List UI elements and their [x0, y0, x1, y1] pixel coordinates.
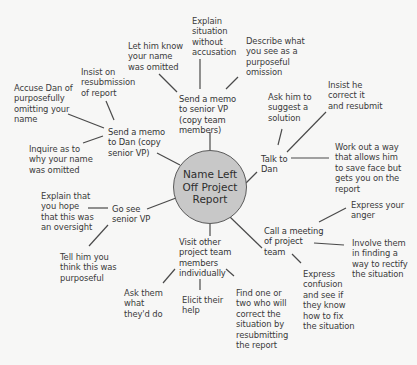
branch-visit-members: Visit other project team members individ…: [179, 237, 231, 279]
branch-memo-senior-vp: Send a memo to senior VP (copy team memb…: [179, 94, 236, 136]
leaf-express-anger: Express your anger: [351, 200, 404, 221]
leaf-think-purposeful: Tell him you think this was purposeful: [60, 252, 117, 283]
leaf-let-him-know: Let him know your name was omitted: [128, 41, 183, 72]
central-topic: Name Left Off Project Report: [173, 150, 247, 224]
leaf-inquire-why: Inquire as to why your name was omitted: [29, 144, 93, 175]
leaf-work-out-way: Work out a way that allows him to save f…: [335, 142, 401, 194]
leaf-explain-without-accusation: Explain situation without accusation: [192, 16, 236, 58]
mind-map: Name Left Off Project Report Send a memo…: [0, 0, 417, 365]
central-topic-label: Name Left Off Project Report: [183, 168, 238, 206]
branch-call-meeting: Call a meeting of project team: [264, 226, 323, 257]
leaf-ask-suggest-solution: Ask him to suggest a solution: [268, 92, 311, 123]
leaf-insist-correct-resubmit: Insist he correct it and resubmit: [328, 80, 382, 111]
leaf-describe-omission: Describe what you see as a purposeful om…: [246, 36, 305, 78]
leaf-accuse-dan: Accuse Dan of purposefully omitting your…: [14, 83, 73, 125]
leaf-insist-resubmission: Insist on resubmission of report: [81, 67, 135, 98]
leaf-elicit-help: Elicit their help: [182, 295, 223, 316]
leaf-express-confusion: Express confusion and see if they know h…: [303, 269, 355, 331]
leaf-ask-what-theyd-do: Ask them what they'd do: [124, 288, 163, 319]
branch-memo-dan: Send a memo to Dan (copy senior VP): [108, 127, 165, 158]
leaf-involve-them: Involve them in finding a way to rectify…: [352, 238, 408, 280]
leaf-hope-oversight: Explain that you hope that this was an o…: [41, 191, 94, 233]
leaf-find-one-or-two: Find one or two who will correct the sit…: [236, 288, 288, 350]
branch-talk-to-dan: Talk to Dan: [261, 154, 287, 175]
branch-go-see-vp: Go see senior VP: [112, 204, 150, 225]
